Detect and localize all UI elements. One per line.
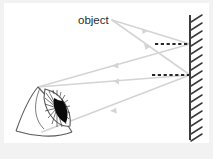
eye-socket-upper-curve: [16, 87, 38, 131]
optics-diagram: object: [0, 0, 213, 159]
hatch-mark: [191, 127, 202, 134]
mirror-assembly: [190, 15, 202, 141]
hatch-mark: [191, 23, 202, 30]
hatch-mark: [191, 103, 202, 110]
hatch-mark: [191, 95, 202, 102]
arrowhead-eyecone-lower: [113, 79, 119, 85]
hatch-mark: [191, 39, 202, 46]
hatch-mark: [191, 111, 202, 118]
eye-lid-fold: [36, 88, 44, 129]
arrowhead-reflected-lower: [110, 108, 117, 114]
hatch-mark: [191, 134, 202, 141]
hatch-mark: [191, 119, 202, 126]
hatch-mark: [191, 63, 202, 70]
hatch-mark: [191, 79, 202, 86]
mirror-hatching: [191, 15, 202, 141]
arrowhead-incident-upper: [142, 28, 148, 34]
hatch-mark: [191, 31, 202, 38]
hatch-mark: [191, 15, 202, 22]
object-label: object: [78, 14, 109, 26]
hatch-mark: [191, 55, 202, 62]
hatch-mark: [191, 47, 202, 54]
diagram-page: object: [0, 0, 213, 159]
hatch-mark: [191, 87, 202, 94]
arrowhead-reflected-upper: [112, 63, 118, 69]
incident-ray-upper: [112, 20, 190, 44]
hatch-mark: [191, 71, 202, 78]
ray-arrowheads: [110, 28, 150, 113]
eye-drawing: [16, 87, 72, 136]
